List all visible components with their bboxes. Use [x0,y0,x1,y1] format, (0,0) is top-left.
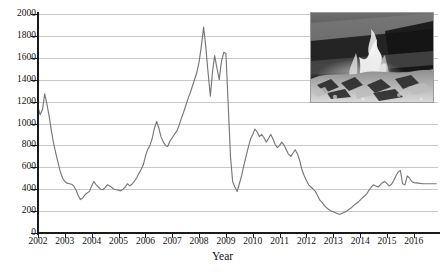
y-tick [31,145,37,146]
y-tick [31,124,37,125]
fire-photo-inset [310,12,434,103]
y-tick [31,14,37,15]
y-tick [31,58,37,59]
fire-photo-image [311,13,433,102]
x-axis-title: Year [0,250,445,262]
y-axis-labels: 0200400600800100012001400160018002000 [0,0,36,272]
y-tick [31,80,37,81]
y-tick [31,102,37,103]
y-tick [31,189,37,190]
y-tick [31,167,37,168]
y-tick [31,36,37,37]
y-tick [31,211,37,212]
chart-figure: 0200400600800100012001400160018002000 20… [0,0,445,272]
y-axis [37,12,39,235]
x-tick-label: 2016 [392,236,436,247]
y-tick [31,233,37,234]
x-axis [37,232,440,234]
